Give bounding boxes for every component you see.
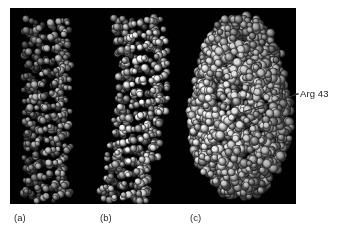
caption-panel-a: (a) bbox=[14, 212, 26, 224]
annotation-label-arg43: Arg 43 bbox=[300, 88, 329, 99]
caption-row: (a) (b) (c) bbox=[0, 210, 338, 230]
figure-root: Arg 43 (a) (b) (c) bbox=[0, 0, 338, 236]
molecular-graphics-panel bbox=[10, 8, 296, 204]
caption-panel-b: (b) bbox=[100, 212, 112, 224]
caption-panel-c: (c) bbox=[190, 212, 201, 224]
molecule-render-canvas bbox=[10, 8, 296, 204]
